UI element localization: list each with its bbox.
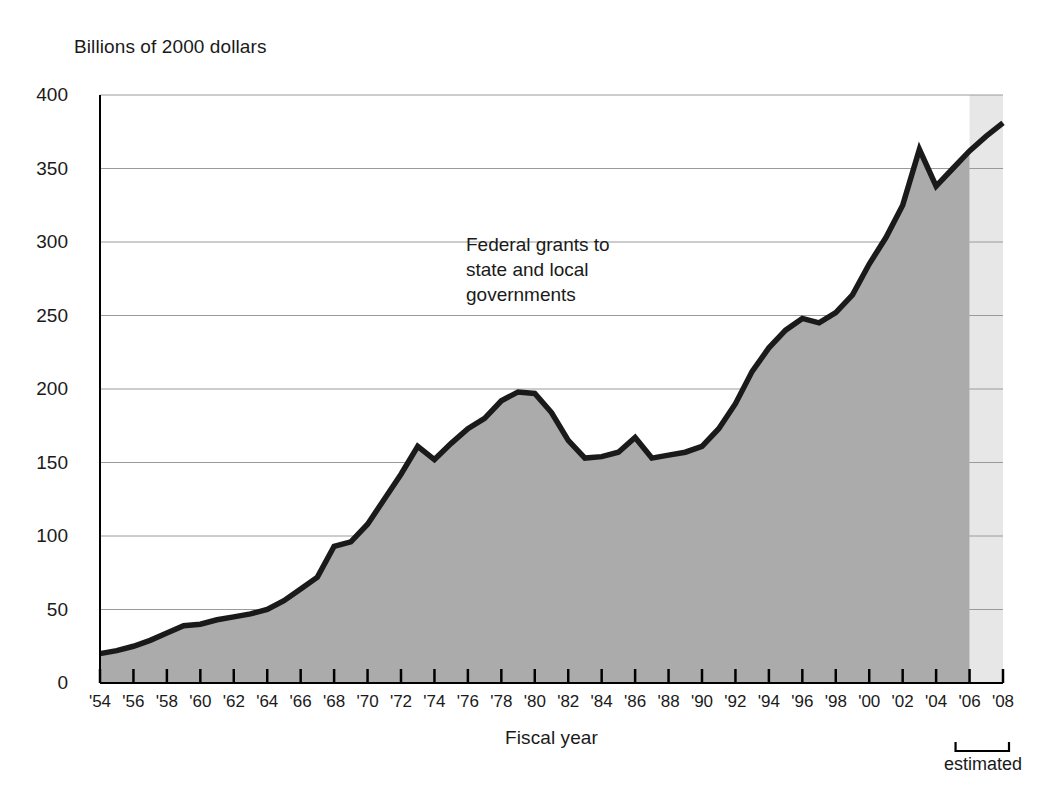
area-series-fill <box>100 149 970 683</box>
y-tick-label: 50 <box>20 599 68 621</box>
series-annotation-line: Federal grants to <box>466 232 610 257</box>
x-tick-label: '08 <box>981 692 1025 712</box>
y-tick-label: 300 <box>20 231 68 253</box>
y-tick-label: 400 <box>20 84 68 106</box>
series-annotation-line: state and local <box>466 257 610 282</box>
y-tick-label: 0 <box>20 672 68 694</box>
y-tick-label: 150 <box>20 452 68 474</box>
series-annotation-line: governments <box>466 282 610 307</box>
series-annotation: Federal grants tostate and localgovernme… <box>466 232 610 307</box>
x-axis-title: Fiscal year <box>505 727 598 749</box>
y-tick-label: 200 <box>20 378 68 400</box>
y-tick-label: 350 <box>20 158 68 180</box>
chart-plot-area <box>0 0 1060 793</box>
y-tick-label: 250 <box>20 305 68 327</box>
estimated-bracket <box>956 742 1009 751</box>
estimated-label: estimated <box>944 754 1022 775</box>
chart-figure: Billions of 2000 dollars 050100150200250… <box>0 0 1060 793</box>
y-axis-title: Billions of 2000 dollars <box>74 36 267 58</box>
y-tick-label: 100 <box>20 525 68 547</box>
